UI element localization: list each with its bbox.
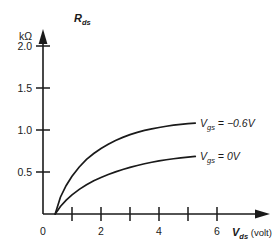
x-axis-arrow-icon [255, 210, 270, 219]
y-axis-arrow-icon [39, 29, 48, 44]
y-axis-title: Rds [74, 12, 91, 27]
x-tick-label-0: 0 [40, 225, 46, 237]
y-tick-label-2-0: 2.0 [17, 40, 32, 52]
x-tick-label-6: 6 [214, 225, 220, 237]
series-label-vgs-neg06: Vgs = −0.6V [200, 117, 256, 132]
chart-figure: Rds kΩ 2.0 1.5 1.0 0.5 [0, 0, 280, 239]
chart-svg: Rds kΩ 2.0 1.5 1.0 0.5 [0, 0, 280, 239]
y-tick-label-1-5: 1.5 [17, 82, 32, 94]
x-tick-label-2: 2 [98, 225, 104, 237]
x-tick-label-4: 4 [156, 225, 162, 237]
y-tick-label-0-5: 0.5 [17, 166, 32, 178]
series-line-vgs-0 [55, 156, 195, 214]
y-tick-label-1-0: 1.0 [17, 124, 32, 136]
x-axis-title: Vds (volt) [232, 226, 272, 239]
series-label-vgs-0: Vgs = 0V [200, 150, 241, 165]
